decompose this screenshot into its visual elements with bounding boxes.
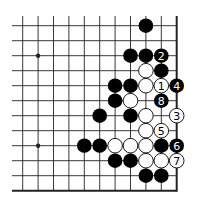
white-stone-move-7: 7: [169, 153, 184, 168]
black-stone-icon: [108, 153, 123, 168]
black-stone-icon: [154, 138, 169, 153]
white-stone-move-3: 3: [169, 108, 184, 123]
black-stone: [108, 153, 123, 168]
white-stone-move-1: 1: [154, 78, 169, 93]
white-stone: [139, 108, 154, 123]
white-stone: [139, 123, 154, 138]
star-point: [36, 54, 40, 58]
move-number: 7: [173, 155, 180, 168]
move-number: 6: [173, 140, 180, 153]
black-stone: [154, 168, 169, 183]
black-stone-icon: [123, 153, 138, 168]
black-stone: [92, 138, 107, 153]
white-stone-icon: [139, 138, 154, 153]
black-stone-move-2: 2: [154, 48, 169, 63]
star-point: [36, 144, 40, 148]
white-stone: [139, 138, 154, 153]
black-stone: [108, 93, 123, 108]
white-stone: [139, 78, 154, 93]
black-stone-icon: [77, 138, 92, 153]
white-stone-icon: [108, 138, 123, 153]
go-board: 21483567: [0, 0, 199, 200]
black-stone-icon: [92, 108, 107, 123]
white-stone: [154, 153, 169, 168]
white-stone: [108, 138, 123, 153]
black-stone-icon: [123, 48, 138, 63]
move-number: 4: [173, 80, 180, 93]
move-number: 3: [173, 110, 180, 123]
black-stone-icon: [139, 48, 154, 63]
black-stone-icon: [108, 78, 123, 93]
black-stone-icon: [139, 18, 154, 33]
black-stone: [123, 78, 138, 93]
black-stone-move-4: 4: [169, 78, 184, 93]
black-stone-icon: [123, 78, 138, 93]
move-number: 8: [158, 95, 165, 108]
white-stone-icon: [139, 108, 154, 123]
black-stone-icon: [123, 108, 138, 123]
black-stone: [92, 108, 107, 123]
black-stone: [139, 18, 154, 33]
black-stone-icon: [154, 168, 169, 183]
black-stone-move-6: 6: [169, 138, 184, 153]
black-stone: [154, 63, 169, 78]
white-stone-icon: [154, 153, 169, 168]
black-stone: [77, 138, 92, 153]
move-number: 5: [158, 125, 165, 138]
move-number: 2: [158, 50, 165, 63]
black-stone: [108, 78, 123, 93]
white-stone: [123, 138, 138, 153]
white-stone-icon: [139, 78, 154, 93]
black-stone-move-8: 8: [154, 93, 169, 108]
white-stone: [123, 93, 138, 108]
black-stone: [123, 48, 138, 63]
white-stone-icon: [139, 63, 154, 78]
black-stone-icon: [108, 93, 123, 108]
black-stone: [139, 168, 154, 183]
black-stone-icon: [92, 138, 107, 153]
white-stone-icon: [123, 93, 138, 108]
black-stone: [123, 153, 138, 168]
black-stone-icon: [154, 63, 169, 78]
black-stone: [123, 108, 138, 123]
white-stone: [139, 63, 154, 78]
white-stone-icon: [139, 123, 154, 138]
move-number: 1: [158, 80, 165, 93]
white-stone-icon: [139, 153, 154, 168]
white-stone: [139, 153, 154, 168]
white-stone-move-5: 5: [154, 123, 169, 138]
white-stone-icon: [123, 138, 138, 153]
black-stone-icon: [139, 168, 154, 183]
black-stone: [154, 138, 169, 153]
black-stone: [139, 48, 154, 63]
